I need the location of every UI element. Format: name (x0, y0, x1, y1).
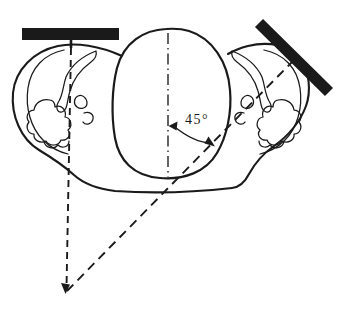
right-hip-bone-detail (232, 50, 301, 154)
diagram-canvas: 45° (0, 0, 353, 310)
left-femoral-head (27, 100, 71, 145)
left-ilium-outline (57, 51, 96, 112)
right-film-cassette (259, 23, 329, 92)
positioning-diagram: 45° (0, 0, 353, 310)
left-acetabulum-curl (83, 112, 93, 124)
left-film-cassette (22, 28, 119, 40)
left-acetabulum-blob (74, 95, 87, 108)
central-oval-outline (113, 29, 231, 179)
left-hip-bone-detail (27, 50, 96, 154)
angle-label: 45° (185, 112, 209, 127)
left-inner-rim (27, 50, 68, 154)
